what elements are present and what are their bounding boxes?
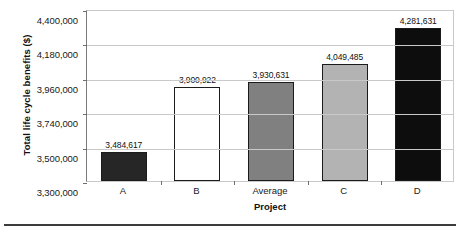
- y-axis-tick-label: 3,740,000: [37, 118, 78, 129]
- x-axis-title: Project: [86, 201, 454, 212]
- bar-value-label: 4,049,485: [326, 52, 363, 62]
- x-axis-category-average: Average: [252, 185, 287, 196]
- bar-a: [101, 152, 147, 181]
- bar-slot: 3,900,922: [161, 11, 235, 181]
- x-axis-category-d: D: [414, 185, 421, 196]
- y-axis-tick-labels: 4,400,0004,180,0003,960,0003,740,0003,50…: [24, 10, 82, 182]
- footer-rule: [4, 224, 456, 226]
- bar-slot: 4,281,631: [381, 11, 455, 181]
- y-axis-tick-label: 3,960,000: [37, 83, 78, 94]
- x-axis-category-labels: ABAverageCD: [86, 185, 454, 199]
- gridline: [87, 80, 453, 81]
- y-axis-tick-mark: [83, 11, 87, 12]
- bar-c: [322, 64, 368, 181]
- y-axis-tick-label: 4,180,000: [37, 49, 78, 60]
- x-axis-category-c: C: [340, 185, 347, 196]
- bar-slot: 3,484,617: [87, 11, 161, 181]
- chart-figure: Total life cycle benefits ($) 4,400,0004…: [0, 0, 460, 233]
- gridline: [87, 149, 453, 150]
- y-axis-tick-mark: [83, 45, 87, 46]
- y-axis-tick-label: 4,400,000: [37, 15, 78, 26]
- gridline: [87, 114, 453, 115]
- x-axis-category-b: B: [193, 185, 199, 196]
- bar-value-label: 4,281,631: [400, 16, 437, 26]
- bar-slot: 3,930,631: [234, 11, 308, 181]
- bar-slot: 4,049,485: [308, 11, 382, 181]
- bar-d: [395, 28, 441, 181]
- y-axis-tick-mark: [83, 149, 87, 150]
- y-axis-tick-label: 3,300,000: [37, 187, 78, 198]
- y-axis-tick-label: 3,500,000: [37, 152, 78, 163]
- y-axis-tick-mark: [83, 114, 87, 115]
- bar-b: [174, 87, 220, 181]
- bar-average: [248, 82, 294, 181]
- x-axis-category-a: A: [120, 185, 126, 196]
- y-axis-tick-mark: [83, 183, 87, 184]
- y-axis-tick-mark: [83, 80, 87, 81]
- gridline: [87, 45, 453, 46]
- plot-area: 3,484,6173,900,9223,930,6314,049,4854,28…: [86, 10, 454, 182]
- bar-series: 3,484,6173,900,9223,930,6314,049,4854,28…: [87, 11, 453, 181]
